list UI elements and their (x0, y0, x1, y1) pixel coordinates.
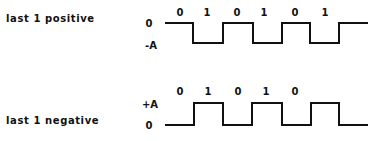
waveform-last-1-negative (165, 103, 368, 125)
waveform-last-1-positive (165, 23, 368, 43)
waveforms (0, 0, 373, 141)
